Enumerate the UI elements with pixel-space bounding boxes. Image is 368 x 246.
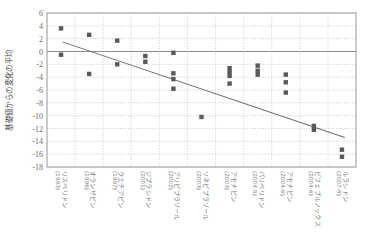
x-category-label: アセナピン(2003) — [224, 171, 238, 202]
x-category-year: (2007-8) — [336, 171, 343, 196]
x-category-label: アリピプラゾール(2002) — [168, 171, 182, 221]
data-point — [87, 72, 91, 76]
x-category-label: ジプラシドン(2001) — [140, 171, 154, 208]
x-category-label: アセナピン(2004-6) — [280, 171, 294, 202]
data-point — [227, 70, 231, 74]
y-tick-label: -6 — [36, 86, 43, 95]
y-tick-label: -2 — [36, 60, 43, 69]
y-axis-title: 基礎値からの変化の平均 — [4, 49, 14, 130]
y-tick-label: -12 — [32, 125, 43, 134]
data-point — [227, 81, 231, 85]
data-point — [143, 54, 147, 58]
data-point — [115, 62, 119, 66]
x-category-label: ルラシドン(2007-8) — [336, 171, 350, 202]
y-tick-label: -4 — [36, 73, 43, 82]
y-tick-label: -18 — [32, 163, 43, 172]
x-category-year: (2004-6) — [308, 171, 315, 196]
scatter-chart: 6420-2-4-6-8-10-12-14-16-18リスペリドン(1993)オ… — [0, 0, 368, 246]
x-category-year: (2004-5) — [252, 171, 259, 196]
x-category-year: (2002) — [168, 171, 175, 190]
data-point — [115, 38, 119, 42]
x-category-year: (2003) — [224, 171, 231, 190]
y-tick-label: 4 — [39, 22, 43, 31]
x-category-year: (2004-6) — [280, 171, 287, 196]
data-point — [171, 77, 175, 81]
data-point — [284, 90, 288, 94]
data-point — [340, 147, 344, 151]
data-point — [171, 51, 175, 55]
x-category-year: (1996) — [84, 171, 91, 190]
data-point — [312, 128, 316, 132]
x-category-label: リスペリドン(1993) — [55, 171, 69, 208]
y-tick-label: -16 — [32, 150, 43, 159]
data-point — [171, 87, 175, 91]
y-tick-label: -14 — [32, 137, 43, 146]
x-category-label: クエチアピン(1997) — [112, 171, 126, 208]
x-category-year: (2003) — [196, 171, 203, 190]
data-point — [171, 71, 175, 75]
y-tick-label: 2 — [39, 35, 43, 44]
data-point — [59, 26, 63, 30]
data-point — [255, 72, 259, 76]
y-tick-label: -8 — [36, 99, 43, 108]
data-point — [143, 60, 147, 64]
data-point — [284, 80, 288, 84]
y-tick-label: 6 — [39, 9, 43, 18]
data-point — [255, 63, 259, 67]
data-point — [255, 69, 259, 73]
x-category-label: ソネピプラゾール(2003) — [196, 171, 210, 221]
y-tick-label: 0 — [39, 48, 43, 57]
data-point — [340, 155, 344, 159]
data-point — [87, 33, 91, 37]
data-point — [59, 53, 63, 57]
x-category-year: (2001) — [140, 171, 147, 190]
x-category-label: パリペリドン(2004-5) — [252, 171, 266, 208]
data-point — [312, 124, 316, 128]
data-point — [227, 74, 231, 78]
data-point — [227, 66, 231, 70]
x-category-year: (1997) — [112, 171, 119, 190]
y-tick-label: -10 — [32, 112, 43, 121]
data-point — [199, 115, 203, 119]
data-point — [284, 72, 288, 76]
x-category-label: オランザピン(1996) — [84, 171, 98, 208]
chart-container: 6420-2-4-6-8-10-12-14-16-18リスペリドン(1993)オ… — [0, 0, 368, 246]
x-category-label: ビフェプルノックス(2004-6) — [308, 171, 322, 227]
x-category-year: (1993) — [55, 171, 62, 190]
